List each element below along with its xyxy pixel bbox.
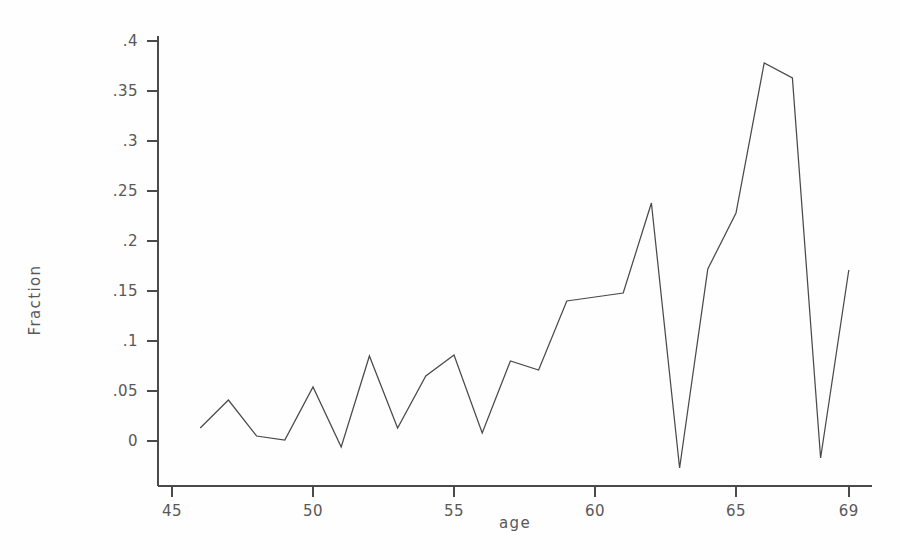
y-tick-label: .35 [113,82,138,100]
x-tick-label: 60 [585,502,605,520]
y-tick-label: .3 [123,132,138,150]
chart-container: 0.05.1.15.2.25.3.35.4 455055606569 age F… [0,0,900,560]
x-tick-label: 69 [839,502,859,520]
y-tick-label: .1 [123,332,138,350]
line-chart: 0.05.1.15.2.25.3.35.4 455055606569 age F… [0,0,900,560]
y-tick-label: .2 [123,232,138,250]
x-tick-label: 55 [444,502,464,520]
fraction-series-line [200,63,849,468]
y-axis-ticks: 0.05.1.15.2.25.3.35.4 [113,32,159,450]
y-axis-title: Fraction [26,264,44,335]
x-tick-label: 65 [726,502,746,520]
x-tick-label: 50 [303,502,323,520]
y-tick-label: .25 [113,182,138,200]
y-tick-label: 0 [128,432,138,450]
x-axis-title: age [499,514,531,532]
y-tick-label: .4 [123,32,138,50]
y-tick-label: .15 [113,282,138,300]
x-tick-label: 45 [162,502,182,520]
y-tick-label: .05 [113,382,138,400]
